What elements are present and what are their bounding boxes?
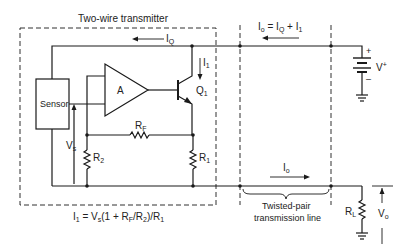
transmission-line-brace <box>243 189 329 199</box>
vs-label: Vs <box>66 141 76 152</box>
r1-resistor <box>190 150 196 169</box>
vo-label: Vo <box>378 209 389 220</box>
rl-resistor <box>359 200 365 219</box>
amplifier-label: A <box>117 86 124 96</box>
r1-label: R1 <box>199 153 210 164</box>
r2-label: R2 <box>93 153 104 164</box>
i1-label: I1 <box>203 58 210 69</box>
amplifier-triangle <box>105 64 148 116</box>
transmission-line-label-1: Twisted-pair <box>262 202 311 211</box>
rl-label: RL <box>345 207 356 218</box>
transfer-equation: I1 = Vs(1 + RF/R2)/R1 <box>73 212 164 223</box>
iq-label: IQ <box>166 34 174 45</box>
io-bottom-label: Io <box>283 163 290 174</box>
transmitter-boundary <box>20 28 216 205</box>
minus-sign: – <box>366 75 371 84</box>
sensor-label: Sensor <box>40 100 69 109</box>
plus-sign: + <box>366 47 371 56</box>
transmitter-title: Two-wire transmitter <box>78 14 168 24</box>
transmission-line-label-2: transmission line <box>254 214 321 223</box>
vplus-label: V+ <box>376 61 387 73</box>
rf-label: RF <box>135 121 147 132</box>
q1-label: Q1 <box>196 86 208 97</box>
io-equation-label: Io = IQ + I1 <box>258 22 302 33</box>
rf-resistor <box>130 132 149 138</box>
r2-resistor <box>84 150 90 169</box>
